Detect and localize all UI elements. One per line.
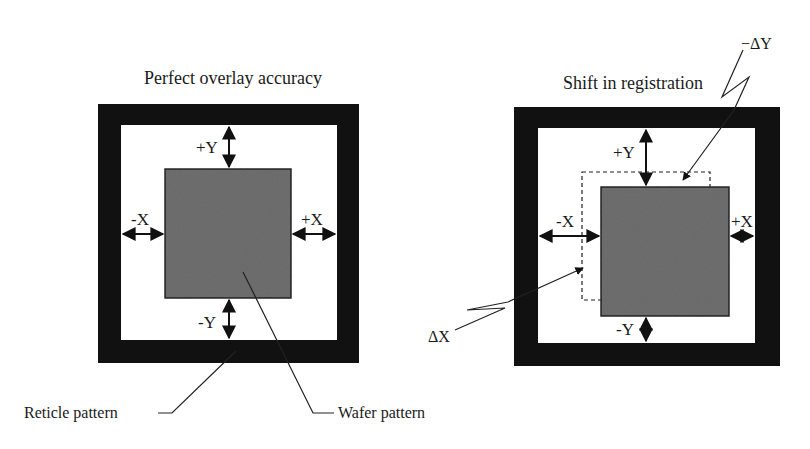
minus-x-label-right: -X: [556, 212, 574, 231]
plus-y-label-right: +Y: [613, 143, 635, 162]
left-panel-perfect-overlay: Perfect overlay accuracy +Y -Y -X +X Ret…: [24, 68, 425, 422]
wafer-square-right: [601, 187, 729, 316]
wafer-pattern-label: Wafer pattern: [338, 404, 425, 422]
reticle-pattern-label: Reticle pattern: [24, 404, 118, 422]
delta-y-label: −ΔY: [741, 35, 772, 52]
minus-y-label-left: -Y: [198, 313, 216, 332]
minus-x-label-left: -X: [131, 210, 149, 229]
minus-y-label-right: -Y: [616, 320, 634, 339]
left-panel-title: Perfect overlay accuracy: [144, 68, 322, 88]
delta-x-label: ΔX: [428, 328, 450, 345]
right-panel-shift-registration: Shift in registration +Y -Y -X +X −ΔY ΔX: [428, 35, 780, 366]
plus-x-label-left: +X: [301, 210, 323, 229]
plus-x-label-right: +X: [731, 212, 753, 231]
wafer-square-left: [165, 169, 291, 298]
overlay-diagram: Perfect overlay accuracy +Y -Y -X +X Ret…: [0, 0, 810, 449]
plus-y-label-left: +Y: [196, 138, 218, 157]
right-panel-title: Shift in registration: [563, 73, 703, 93]
